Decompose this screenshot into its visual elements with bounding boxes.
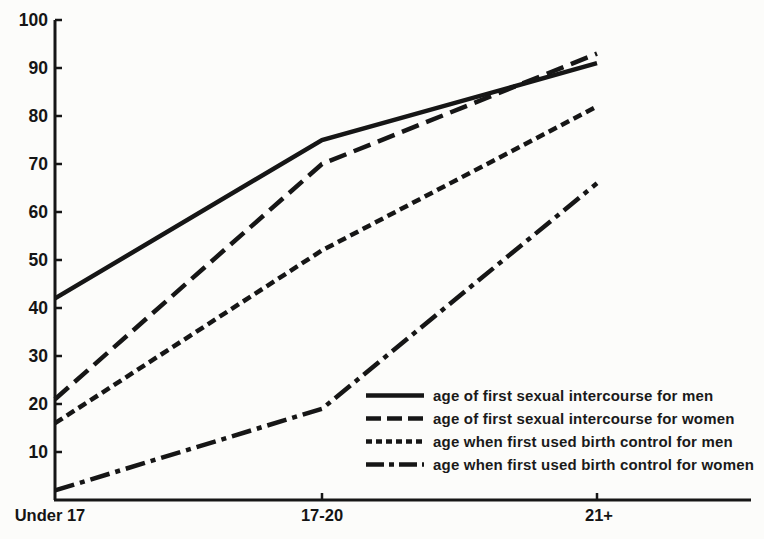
- legend-label: age of first sexual intercourse for wome…: [433, 410, 735, 427]
- y-tick-label: 30: [29, 346, 49, 366]
- line-chart-figure: 102030405060708090100Under 1717-2021+ ag…: [0, 0, 764, 539]
- legend-label: age of first sexual intercourse for men: [433, 387, 713, 404]
- series-line-1: [55, 54, 597, 400]
- x-tick-label: 21+: [585, 506, 613, 524]
- legend-item: age of first sexual intercourse for men: [366, 384, 754, 407]
- y-tick-label: 90: [29, 58, 49, 78]
- y-tick-label: 100: [19, 10, 48, 30]
- x-tick-label: Under 17: [15, 506, 86, 524]
- legend-label: age when first used birth control for wo…: [433, 456, 754, 473]
- legend-item: age of first sexual intercourse for wome…: [366, 407, 754, 430]
- x-tick-label: 17-20: [301, 506, 343, 524]
- legend-line-swatch-short-dash: [366, 437, 424, 446]
- y-tick-label: 60: [29, 202, 49, 222]
- legend-item: age when first used birth control for wo…: [366, 453, 754, 476]
- legend-item: age when first used birth control for me…: [366, 430, 754, 453]
- y-tick-label: 80: [29, 106, 49, 126]
- legend-line-swatch-long-dash: [366, 414, 424, 423]
- y-tick-label: 10: [29, 442, 49, 462]
- legend-label: age when first used birth control for me…: [433, 433, 733, 450]
- y-tick-label: 20: [29, 394, 49, 414]
- legend-line-swatch-dash-dot: [366, 460, 424, 469]
- chart-legend: age of first sexual intercourse for men …: [366, 384, 754, 476]
- y-tick-label: 40: [29, 298, 49, 318]
- y-tick-label: 50: [29, 250, 49, 270]
- series-line-2: [55, 106, 597, 423]
- y-tick-label: 70: [29, 154, 49, 174]
- legend-line-swatch-solid: [366, 391, 424, 400]
- series-line-0: [55, 63, 597, 298]
